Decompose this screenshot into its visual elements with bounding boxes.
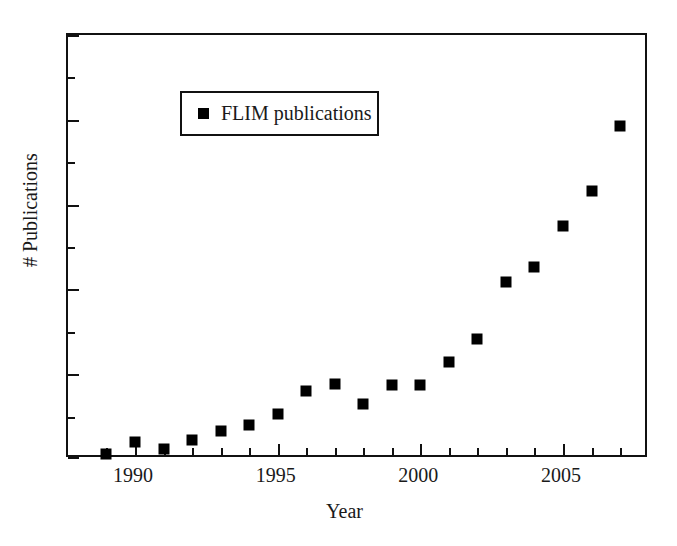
x-tick-minor [192,448,194,455]
data-point [301,386,312,397]
y-tick-major [68,289,79,291]
x-tick-label: 2005 [541,464,581,487]
x-tick-major [420,444,422,455]
y-tick-minor [68,77,75,79]
x-tick-minor [221,448,223,455]
chart-legend: FLIM publications [180,91,379,136]
data-point [187,435,198,446]
data-point [472,334,483,345]
flim-publications-chart: FLIM publications 1990199520002005 Year … [0,0,677,546]
data-point [529,262,540,273]
y-tick-major [68,374,79,376]
x-tick-minor [363,448,365,455]
y-tick-major [68,35,79,37]
y-tick-minor [68,162,75,164]
x-tick-minor [306,448,308,455]
y-tick-major [68,120,79,122]
data-point [215,426,226,437]
y-axis-title-text: # Publications [19,153,41,267]
x-tick-minor [592,448,594,455]
x-tick-major [278,444,280,455]
x-axis-title-text: Year [326,500,363,522]
data-point [272,409,283,420]
x-tick-label: 1995 [256,464,296,487]
y-tick-minor [68,332,75,334]
x-tick-label: 2000 [398,464,438,487]
x-tick-minor [620,448,622,455]
data-point [386,380,397,391]
y-tick-major [68,457,79,459]
data-point [586,186,597,197]
data-point [415,380,426,391]
plot-area: FLIM publications [66,33,647,457]
data-point [615,121,626,132]
x-tick-minor [449,448,451,455]
x-tick-label: 1990 [113,464,153,487]
y-axis-title: # Publications [19,223,42,267]
y-tick-major [68,205,79,207]
x-tick-minor [392,448,394,455]
data-point [329,379,340,390]
data-point [244,420,255,431]
data-point [358,399,369,410]
y-tick-minor [68,247,75,249]
x-tick-minor [249,448,251,455]
data-point [500,277,511,288]
legend-marker-icon [198,108,209,119]
x-tick-minor [477,448,479,455]
x-tick-minor [506,448,508,455]
y-tick-minor [68,417,75,419]
data-point [101,449,112,460]
data-point [158,444,169,455]
x-tick-minor [534,448,536,455]
data-point [558,221,569,232]
x-tick-minor [335,448,337,455]
data-point [130,437,141,448]
data-point [443,357,454,368]
legend-label: FLIM publications [221,102,372,125]
x-tick-major [563,444,565,455]
x-axis-title: Year [0,500,677,523]
